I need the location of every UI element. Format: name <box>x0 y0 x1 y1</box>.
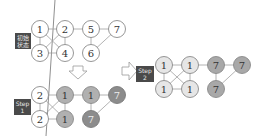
step2-label-line2: 2 <box>137 74 153 81</box>
down-arrow-icon <box>69 66 87 79</box>
right-arrow-icon <box>122 62 137 80</box>
svg-text:7: 7 <box>213 60 219 71</box>
node-e: 1 <box>156 81 173 98</box>
step1-nodes: 2 1 1 7 2 1 7 <box>32 87 126 128</box>
step1-edges <box>40 95 117 119</box>
step1-label-line1: Step <box>15 100 30 107</box>
node-d: 7 <box>109 87 126 104</box>
svg-text:2: 2 <box>37 90 43 101</box>
svg-text:7: 7 <box>213 84 219 95</box>
step2-edges <box>164 65 242 89</box>
svg-text:7: 7 <box>88 114 94 125</box>
svg-text:1: 1 <box>187 60 193 71</box>
node-c: 7 <box>208 57 225 74</box>
step1-label: Step 1 <box>14 99 31 115</box>
svg-text:1: 1 <box>62 114 68 125</box>
svg-text:1: 1 <box>161 60 167 71</box>
node-f: 1 <box>57 111 74 128</box>
svg-text:1: 1 <box>62 90 68 101</box>
svg-text:1: 1 <box>88 90 94 101</box>
node-f: 1 <box>182 81 199 98</box>
initial-nodes: 1 2 5 7 3 4 6 <box>32 21 126 62</box>
step2-label: Step 2 <box>136 66 154 82</box>
node-a: 2 <box>32 87 49 104</box>
node-b: 1 <box>182 57 199 74</box>
svg-text:2: 2 <box>37 114 43 125</box>
node-g: 7 <box>83 111 100 128</box>
union-find-diagram: 1 2 5 7 3 4 6 2 1 1 7 2 1 7 <box>0 0 260 136</box>
step1-label-line2: 1 <box>15 107 30 114</box>
node-7: 7 <box>109 21 126 38</box>
svg-text:1: 1 <box>161 84 167 95</box>
node-d: 7 <box>234 57 251 74</box>
node-5: 5 <box>83 21 100 38</box>
svg-text:5: 5 <box>88 24 94 35</box>
svg-text:2: 2 <box>62 24 68 35</box>
initial-state-label: 初始 状态 <box>15 33 31 49</box>
node-a: 1 <box>156 57 173 74</box>
svg-text:1: 1 <box>187 84 193 95</box>
svg-text:7: 7 <box>114 90 120 101</box>
node-4: 4 <box>57 45 74 62</box>
svg-text:7: 7 <box>239 60 245 71</box>
node-3: 3 <box>32 45 49 62</box>
initial-label-line1: 初始 <box>16 34 30 41</box>
svg-text:4: 4 <box>62 48 68 59</box>
svg-text:3: 3 <box>37 48 43 59</box>
node-e: 2 <box>32 111 49 128</box>
svg-text:7: 7 <box>114 24 120 35</box>
initial-label-line2: 状态 <box>16 41 30 48</box>
node-1: 1 <box>32 21 49 38</box>
node-c: 1 <box>83 87 100 104</box>
svg-text:6: 6 <box>88 48 94 59</box>
svg-text:1: 1 <box>37 24 43 35</box>
node-g: 7 <box>208 81 225 98</box>
node-b: 1 <box>57 87 74 104</box>
node-2: 2 <box>57 21 74 38</box>
step2-nodes: 1 1 7 7 1 1 7 <box>156 57 251 98</box>
node-6: 6 <box>83 45 100 62</box>
step2-label-line1: Step <box>137 67 153 74</box>
